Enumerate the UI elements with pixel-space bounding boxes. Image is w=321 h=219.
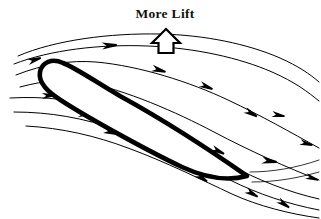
flow-arrow-right-low	[305, 173, 319, 183]
airfoil	[40, 61, 247, 178]
flow-arrow-upper-mid	[151, 65, 166, 75]
flow-arrow-upper-front	[102, 42, 117, 50]
flow-arrow-outer-right	[271, 111, 285, 119]
flow-arrow-wake-upper	[262, 157, 278, 166]
airfoil-lift-diagram: More Lift	[0, 0, 321, 219]
page-title: More Lift	[135, 6, 194, 21]
flow-arrow-wake-mid	[244, 187, 259, 199]
lift-arrow-icon	[152, 29, 180, 53]
diagram-canvas: More Lift	[0, 0, 321, 219]
